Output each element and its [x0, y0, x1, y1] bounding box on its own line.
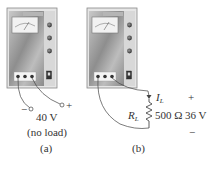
condition-label-a: (no load) [27, 127, 67, 138]
terminal-icon [103, 75, 107, 79]
terminal-icon [16, 75, 20, 79]
resistor-icon [146, 99, 152, 128]
knob-icon [47, 36, 52, 41]
knob-icon [127, 49, 132, 54]
terminal-icon [23, 75, 27, 79]
voltage-label-a: 40 V [36, 112, 58, 123]
knob-icon [47, 23, 52, 28]
current-label-b: IL [156, 92, 164, 107]
minus-terminal-a: − [21, 104, 27, 115]
terminal-icon [96, 75, 100, 79]
terminal-icon [110, 75, 114, 79]
power-supply-b [87, 8, 137, 88]
plus-terminal-a: + [66, 100, 72, 111]
meter-b [92, 17, 118, 33]
caption-b: (b) [132, 143, 145, 154]
resistor-label-b: RL [128, 110, 139, 125]
minus-terminal-b: − [189, 127, 195, 138]
caption-a: (a) [40, 143, 52, 154]
meter-a [12, 17, 38, 33]
power-supply-a [7, 8, 57, 88]
figure-canvas [0, 0, 208, 171]
terminal-icon [30, 75, 34, 79]
knob-icon [127, 23, 132, 28]
current-arrow-icon [147, 95, 152, 99]
resistance-value-b: 500 Ω [155, 110, 182, 121]
plus-terminal-b: + [188, 92, 194, 103]
knob-icon [47, 49, 52, 54]
knob-icon [127, 36, 132, 41]
voltage-label-b: 36 V [185, 110, 207, 121]
